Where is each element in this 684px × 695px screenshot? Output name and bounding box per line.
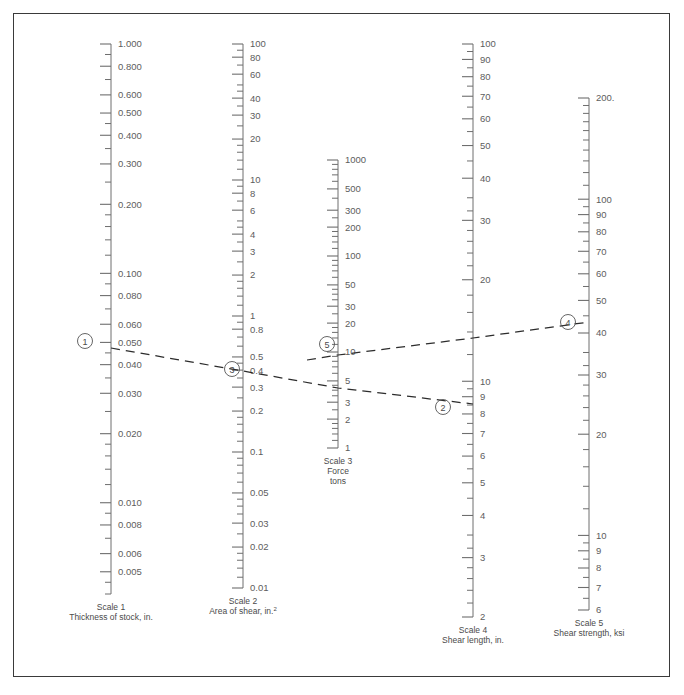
tick-label: 80 <box>250 52 261 63</box>
marker-2: 2 <box>436 400 451 415</box>
tick-label: 0.030 <box>118 388 142 399</box>
axis-scale2: 1008060403020108643210.80.50.40.30.20.10… <box>209 38 277 616</box>
marker-label: 3 <box>229 365 234 375</box>
tick-label: 1.000 <box>118 38 142 49</box>
scale-caption: Thickness of stock, in. <box>69 612 153 622</box>
tick-label: 0.060 <box>118 319 142 330</box>
tick-label: 0.500 <box>118 107 142 118</box>
tick-label: 0.8 <box>250 324 263 335</box>
scale-caption: Area of shear, in.2 <box>209 606 277 616</box>
tick-label: 90 <box>596 209 607 220</box>
tick-label: 0.050 <box>118 337 142 348</box>
tick-label: 4 <box>250 229 255 240</box>
tick-label: 0.03 <box>250 518 269 529</box>
tick-label: 4 <box>480 510 485 521</box>
tick-label: 0.200 <box>118 199 142 210</box>
tick-label: 70 <box>480 91 491 102</box>
scales-group: 1.0000.8000.6000.5000.4000.3000.2000.100… <box>69 38 624 645</box>
tick-label: 7 <box>596 582 601 593</box>
tick-label: 60 <box>250 69 261 80</box>
isopleths-group <box>111 322 589 404</box>
tick-label: 80 <box>596 226 607 237</box>
marker-label: 2 <box>440 403 445 413</box>
tick-label: 80 <box>480 71 491 82</box>
tick-label: 0.100 <box>118 268 142 279</box>
tick-label: 0.01 <box>250 582 269 593</box>
tick-label: 30 <box>250 110 261 121</box>
tick-label: 3 <box>480 552 485 563</box>
tick-label: 20 <box>250 133 261 144</box>
tick-label: 0.800 <box>118 61 142 72</box>
scale-caption: Shear strength, ksi <box>554 628 625 638</box>
tick-label: 2 <box>480 611 485 622</box>
marker-label: 1 <box>82 337 87 347</box>
tick-label: 7 <box>480 428 485 439</box>
tick-label: 100 <box>480 38 496 49</box>
tick-label: 8 <box>480 408 485 419</box>
tick-label: 200 <box>345 222 361 233</box>
tick-label: 1 <box>345 442 350 453</box>
tick-label: 9 <box>480 391 485 402</box>
tick-label: 100 <box>596 194 612 205</box>
tick-label: 20 <box>345 318 356 329</box>
tick-label: 2 <box>250 269 255 280</box>
tick-label: 1 <box>250 310 255 321</box>
scale-caption: tons <box>330 476 346 486</box>
tick-label: 9 <box>596 545 601 556</box>
marker-3: 3 <box>225 362 240 377</box>
tick-label: 0.2 <box>250 405 263 416</box>
tick-label: 90 <box>480 54 491 65</box>
tick-label: 0.1 <box>250 446 263 457</box>
scale-caption: Force <box>327 466 349 476</box>
tick-label: 10 <box>250 174 261 185</box>
scale-caption: Scale 4 <box>459 625 488 635</box>
axis-scale5: 200.1009080706050403020109876Scale 5Shea… <box>554 92 625 638</box>
tick-label: 40 <box>250 93 261 104</box>
tick-label: 50 <box>480 140 491 151</box>
tick-label: 0.400 <box>118 130 142 141</box>
tick-label: 0.005 <box>118 566 142 577</box>
tick-label: 60 <box>596 268 607 279</box>
tick-label: 0.010 <box>118 497 142 508</box>
tick-label: 0.3 <box>250 382 263 393</box>
tick-label: 5 <box>345 375 350 386</box>
tick-label: 8 <box>596 562 601 573</box>
tick-label: 70 <box>596 246 607 257</box>
tick-label: 200. <box>596 92 615 103</box>
tick-label: 40 <box>596 327 607 338</box>
tick-label: 300 <box>345 205 361 216</box>
tick-label: 6 <box>596 604 601 615</box>
tick-label: 0.080 <box>118 290 142 301</box>
nomogram-page: 1.0000.8000.6000.5000.4000.3000.2000.100… <box>0 0 684 695</box>
tick-label: 3 <box>250 246 255 257</box>
scale-caption: Scale 3 <box>324 456 353 466</box>
tick-label: 10 <box>596 530 607 541</box>
scale-caption: Scale 2 <box>229 596 258 606</box>
scale-caption: Scale 5 <box>575 618 604 628</box>
tick-label: 30 <box>480 215 491 226</box>
markers-group: 13524 <box>78 315 576 415</box>
scale-caption: Scale 1 <box>97 602 126 612</box>
tick-label: 60 <box>480 113 491 124</box>
tick-label: 0.006 <box>118 548 142 559</box>
tick-label: 50 <box>596 295 607 306</box>
tick-label: 20 <box>480 274 491 285</box>
tick-label: 20 <box>596 429 607 440</box>
tick-label: 0.02 <box>250 541 269 552</box>
tick-label: 100 <box>345 250 361 261</box>
tick-label: 30 <box>345 301 356 312</box>
tick-label: 2 <box>345 414 350 425</box>
tick-label: 6 <box>480 450 485 461</box>
tick-label: 3 <box>345 397 350 408</box>
tick-label: 8 <box>250 188 255 199</box>
tick-label: 0.300 <box>118 158 142 169</box>
marker-1: 1 <box>78 334 93 349</box>
tick-label: 1000 <box>345 154 366 165</box>
tick-label: 500 <box>345 183 361 194</box>
tick-label: 0.600 <box>118 89 142 100</box>
tick-label: 0.5 <box>250 351 263 362</box>
isopleth-thickness-length-area <box>111 348 473 404</box>
tick-label: 40 <box>480 173 491 184</box>
axis-scale4: 10090807060504030201098765432Scale 4Shea… <box>442 38 504 645</box>
marker-label: 4 <box>565 318 570 328</box>
